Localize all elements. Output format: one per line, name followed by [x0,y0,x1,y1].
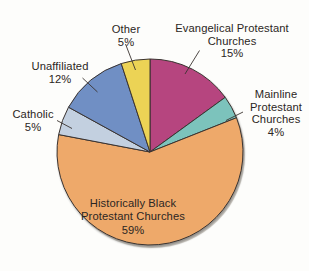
slice-label-percent: 5% [2,121,64,133]
slice-label-text: Catholic [12,108,53,120]
slice-label-text: Unaffiliated [32,60,89,72]
slice-label-unaffiliated: Unaffiliated 12% [20,48,100,98]
slice-label-historically-black-protestant-churches: Historically Black Protestant Churches 5… [62,184,204,250]
slice-label-evangelical-protestant-churches: Evangelical Protestant Churches 15% [166,10,298,72]
slice-label-text: Other [112,23,140,35]
slice-label-percent: 5% [99,36,153,48]
slice-label-percent: 12% [20,73,100,85]
slice-label-text: Mainline Protestant Churches [250,88,302,125]
slice-label-percent: 59% [62,224,204,237]
slice-label-percent: 15% [166,47,298,59]
slice-label-percent: 4% [244,126,308,138]
slice-label-text: Evangelical Protestant Churches [175,22,289,46]
slice-label-text: Historically Black Protestant Churches [81,197,185,222]
slice-label-other: Other 5% [99,11,153,61]
slice-label-catholic: Catholic 5% [2,96,64,146]
slice-label-mainline-protestant-churches: Mainline Protestant Churches 4% [244,76,308,150]
pie-chart-figure: Evangelical Protestant Churches 15% Main… [0,0,309,271]
